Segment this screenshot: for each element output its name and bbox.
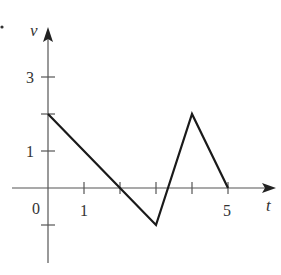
x-axis-label: t: [266, 196, 272, 215]
y-axis: [41, 27, 55, 263]
x-axis: [12, 182, 276, 194]
origin-label: 0: [32, 200, 40, 217]
y-axis-label: v: [30, 21, 38, 40]
y-tick-label-3: 3: [26, 69, 34, 86]
velocity-line: [48, 114, 228, 225]
x-tick-label-5: 5: [223, 202, 231, 219]
x-tick-label-1: 1: [80, 202, 88, 219]
y-tick-label-1: 1: [26, 143, 34, 160]
velocity-graph: v t 0 1 5 1 3: [0, 0, 281, 275]
marker-dot: [0, 25, 3, 28]
